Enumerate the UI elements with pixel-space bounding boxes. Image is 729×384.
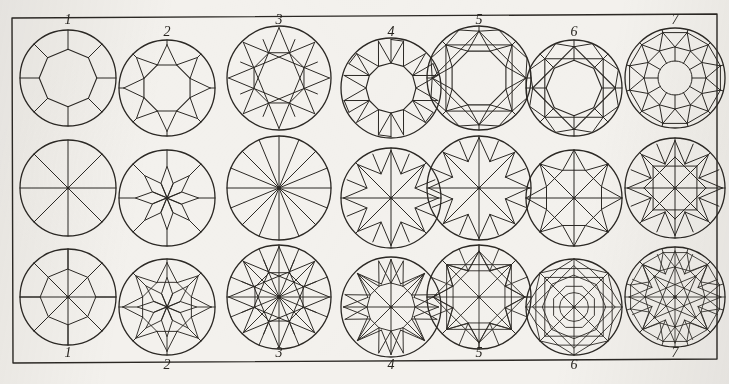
facet-diagram-5-row2 (427, 136, 531, 240)
facet-diagram-6-row2 (526, 150, 622, 246)
facet-diagram-2-row3 (119, 259, 215, 355)
facet-diagram-4-row1 (341, 38, 441, 138)
column-label-bottom-7: 7 (672, 345, 680, 360)
column-label-bottom-3: 3 (275, 345, 283, 360)
column-label-bottom-4: 4 (388, 357, 395, 372)
column-label-top-1: 1 (65, 12, 72, 27)
facet-diagram-5-row3 (427, 245, 531, 349)
column-label-bottom-2: 2 (164, 357, 171, 372)
facet-diagram-7-row2 (625, 138, 725, 238)
facet-diagram-3-row2 (227, 136, 331, 240)
facet-diagram-1-row1 (20, 30, 116, 126)
column-label-top-7: 7 (672, 12, 680, 27)
facet-diagram-7-row1 (625, 28, 725, 128)
facet-diagram-3-row1 (227, 26, 331, 130)
facet-pattern-svg: 12345671234567 (0, 0, 729, 384)
column-label-bottom-6: 6 (571, 357, 578, 372)
column-label-bottom-1: 1 (65, 345, 72, 360)
facet-diagram-6-row3 (526, 259, 622, 355)
facet-diagram-7-row3 (625, 247, 725, 347)
facet-diagram-3-row3 (227, 245, 331, 349)
column-label-top-3: 3 (275, 12, 283, 27)
facet-diagram-5-row1 (427, 26, 531, 130)
facet-diagram-4-row3 (341, 257, 441, 357)
facet-diagram-2-row1 (119, 40, 215, 136)
column-label-top-4: 4 (388, 24, 395, 39)
facet-diagram-2-row2 (119, 150, 215, 246)
column-label-top-6: 6 (571, 24, 578, 39)
facet-diagram-1-row3 (20, 249, 116, 345)
column-label-bottom-5: 5 (476, 345, 483, 360)
facet-diagram-1-row2 (20, 140, 116, 236)
figure-plate: 12345671234567 (0, 0, 729, 384)
facet-diagram-4-row2 (341, 148, 441, 248)
column-label-top-5: 5 (476, 12, 483, 27)
facet-diagram-6-row1 (526, 40, 622, 136)
column-label-top-2: 2 (164, 24, 171, 39)
